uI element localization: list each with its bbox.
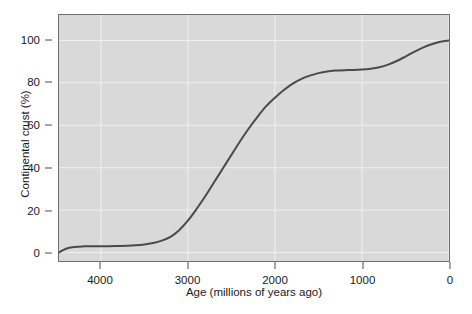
y-axis-title: Continental crust (%)	[19, 74, 31, 214]
y-tick-mark	[45, 167, 52, 168]
x-tick-mark	[362, 262, 363, 269]
x-tick-label: 3000	[175, 274, 201, 286]
y-tick-mark	[45, 125, 52, 126]
x-tick-mark	[187, 262, 188, 269]
x-tick-label: 0	[447, 274, 453, 286]
x-tick-mark	[450, 262, 451, 269]
y-tick-mark	[45, 82, 52, 83]
y-tick-mark	[45, 253, 52, 254]
x-tick-label: 1000	[350, 274, 376, 286]
y-tick-mark	[45, 39, 52, 40]
y-tick-label: 100	[21, 34, 40, 46]
chart-figure: 020406080100 40003000200010000 Age (mill…	[0, 0, 472, 314]
series-path	[59, 40, 449, 252]
x-axis-title: Age (millions of years ago)	[58, 286, 450, 298]
x-tick-mark	[100, 262, 101, 269]
plot-area	[58, 14, 450, 262]
y-tick-label: 0	[34, 247, 40, 259]
x-tick-mark	[275, 262, 276, 269]
data-line-continental-crust	[59, 15, 449, 261]
y-tick-mark	[45, 210, 52, 211]
x-tick-label: 4000	[87, 274, 113, 286]
x-tick-label: 2000	[262, 274, 288, 286]
